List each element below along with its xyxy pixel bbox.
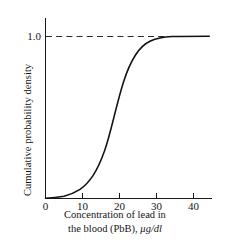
x-axis-title-line-2: the blood (PbB), μg/dl	[0, 222, 230, 236]
x-axis-title-line-1: Concentration of lead in	[0, 208, 230, 222]
x-axis-unit-label: μg/dl	[140, 223, 162, 234]
y-tick-label-1p0: 1.0	[27, 30, 41, 42]
y-axis-title: Cumulative probability density	[22, 64, 33, 196]
figure-container: 0 10 20 30 40 1.0 Cumulative probability…	[0, 0, 230, 249]
x-axis-title: Concentration of lead in the blood (PbB)…	[0, 208, 230, 236]
cumulative-distribution-curve	[46, 36, 210, 198]
x-axis-title-line-2-prefix: the blood (PbB),	[68, 223, 140, 234]
